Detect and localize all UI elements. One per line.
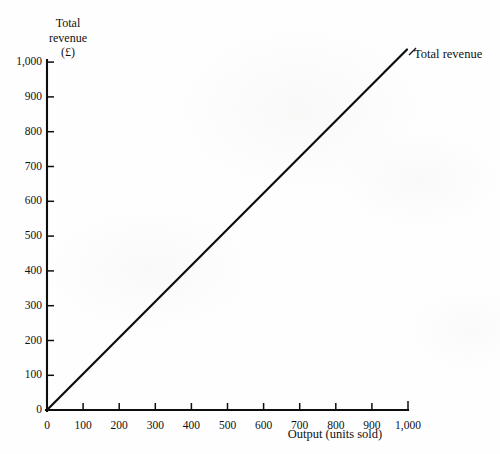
- y-tick-label-300: 300: [0, 300, 42, 312]
- y-tick-label-500: 500: [0, 230, 42, 242]
- y-tick-label-600: 600: [0, 196, 42, 208]
- total-revenue-series-line: [47, 50, 407, 411]
- y-tick-label-400: 400: [0, 265, 42, 277]
- x-axis-title: Output (units sold): [250, 427, 420, 442]
- x-axis-ticks: [83, 401, 408, 410]
- y-tick-label-900: 900: [0, 91, 42, 103]
- x-tick-label-100: 100: [74, 420, 91, 432]
- revenue-chart: Total revenue (£): [0, 0, 500, 454]
- x-tick-label-300: 300: [147, 420, 164, 432]
- x-tick-label-400: 400: [183, 420, 200, 432]
- y-tick-label-200: 200: [0, 335, 42, 347]
- y-tick-label-1000: 1,000: [0, 56, 42, 68]
- y-tick-label-700: 700: [0, 161, 42, 173]
- plot-area: [0, 0, 500, 454]
- y-tick-label-800: 800: [0, 126, 42, 138]
- y-tick-label-100: 100: [0, 370, 42, 382]
- x-tick-label-200: 200: [111, 420, 128, 432]
- x-tick-label-500: 500: [219, 420, 236, 432]
- x-tick-label-0: 0: [44, 420, 50, 432]
- y-tick-label-0: 0: [0, 404, 42, 416]
- total-revenue-series-label: Total revenue: [414, 47, 482, 62]
